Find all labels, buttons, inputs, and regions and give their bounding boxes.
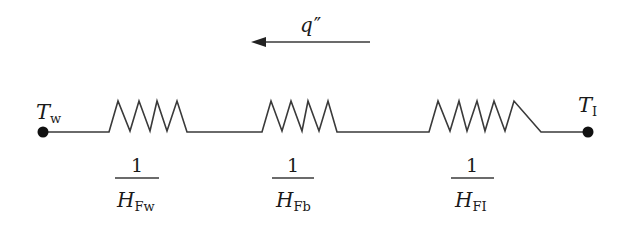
- circuit-wire: [43, 101, 588, 132]
- arrowhead-left-icon: [251, 37, 266, 47]
- heat-flux-label: q″: [300, 13, 321, 37]
- node-right-label: TI: [578, 93, 597, 119]
- fraction-denominator: HFb: [275, 188, 311, 214]
- node-left-dot: [38, 127, 49, 138]
- resistor-label-fi: 1 HFI: [451, 154, 494, 214]
- heat-flux-arrow: [251, 37, 370, 47]
- fraction-denominator: HFI: [454, 188, 487, 214]
- circuit-svg: q″ Tw TI 1 HFw 1 HFb: [0, 0, 628, 235]
- fraction-numerator: 1: [131, 154, 143, 176]
- resistor-label-fw: 1 HFw: [115, 154, 159, 214]
- node-left-label: Tw: [36, 100, 61, 126]
- thermal-circuit-diagram: q″ Tw TI 1 HFw 1 HFb: [0, 0, 628, 235]
- node-right-dot: [583, 127, 594, 138]
- fraction-denominator: HFw: [116, 188, 155, 214]
- fraction-numerator: 1: [466, 154, 478, 176]
- resistor-label-fb: 1 HFb: [272, 154, 314, 214]
- fraction-numerator: 1: [287, 154, 299, 176]
